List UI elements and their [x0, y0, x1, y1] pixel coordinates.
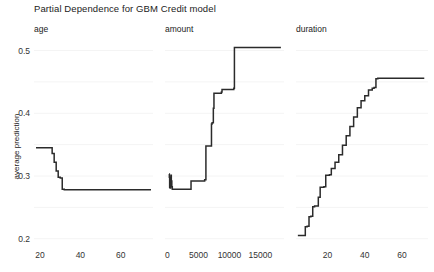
curve-amount — [169, 47, 281, 189]
gridlines — [34, 51, 428, 239]
curve-duration — [298, 78, 424, 235]
plot-area — [0, 0, 434, 272]
curve-age — [36, 148, 151, 190]
partial-dependence-figure: Partial Dependence for GBM Credit model … — [0, 0, 434, 272]
